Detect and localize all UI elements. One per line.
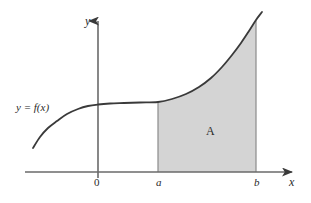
curve-equation-label: y = f(x): [16, 101, 49, 113]
x-tick-label-a: a: [156, 176, 162, 188]
x-tick-label-b: b: [254, 176, 260, 188]
origin-tick-label: 0: [94, 176, 100, 188]
y-axis-label: y: [85, 14, 90, 29]
region-label-A: A: [206, 124, 215, 139]
x-axis-label: x: [289, 175, 294, 190]
integral-area-figure: y x 0 a b y = f(x) A: [0, 0, 311, 203]
